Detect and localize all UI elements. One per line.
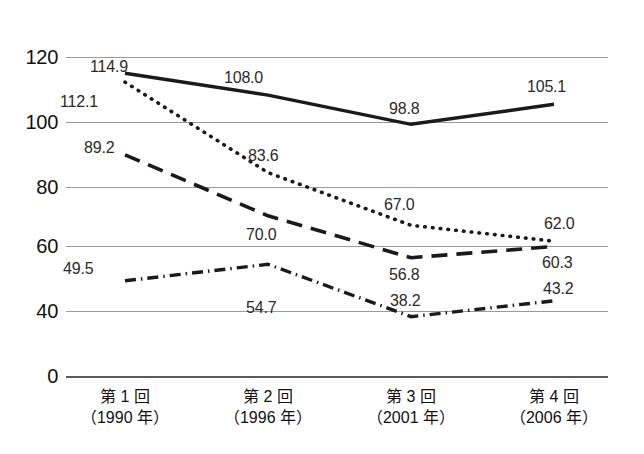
x-tick-sub-0: （1990 年） xyxy=(55,407,195,428)
x-tick-main-1: 第 2 回 xyxy=(243,388,293,405)
x-tick-main-2: 第 3 回 xyxy=(386,388,436,405)
x-tick-label-0: 第 1 回 （1990 年） xyxy=(55,386,195,428)
x-tick-sub-2: （2001 年） xyxy=(341,407,481,428)
series-dash-dot-line xyxy=(125,264,554,316)
x-tick-sub-3: （2006 年） xyxy=(484,407,624,428)
data-label-s3p1: 89.2 xyxy=(84,140,114,156)
data-label-s2p2: 83.6 xyxy=(248,148,278,164)
data-label-s1p3: 98.8 xyxy=(389,101,419,117)
data-label-s3p3: 56.8 xyxy=(389,267,419,283)
data-label-s4p1: 49.5 xyxy=(63,261,93,277)
series-solid-line xyxy=(125,73,554,124)
line-chart: 120 100 80 60 40 0 114.9 108.0 98.8 105.… xyxy=(0,0,644,454)
x-tick-sub-1: （1996 年） xyxy=(198,407,338,428)
x-tick-label-1: 第 2 回 （1996 年） xyxy=(198,386,338,428)
data-label-s4p3: 38.2 xyxy=(390,293,420,309)
data-label-s4p2: 54.7 xyxy=(246,300,276,316)
data-label-s1p1: 114.9 xyxy=(90,59,128,75)
data-label-s1p4: 105.1 xyxy=(527,79,566,95)
series-dashed-line xyxy=(125,155,554,258)
x-tick-main-0: 第 1 回 xyxy=(100,388,150,405)
data-label-s3p4: 60.3 xyxy=(542,255,572,271)
x-tick-label-2: 第 3 回 （2001 年） xyxy=(341,386,481,428)
data-label-s2p1: 112.1 xyxy=(60,94,98,110)
data-label-s3p2: 70.0 xyxy=(246,227,276,243)
data-label-s4p4: 43.2 xyxy=(543,281,573,297)
data-label-s2p3: 67.0 xyxy=(384,197,414,213)
data-label-s2p4: 62.0 xyxy=(544,216,574,232)
data-label-s1p2: 108.0 xyxy=(224,70,263,86)
series-dotted-line xyxy=(125,82,554,241)
x-tick-label-3: 第 4 回 （2006 年） xyxy=(484,386,624,428)
x-tick-main-3: 第 4 回 xyxy=(529,388,579,405)
